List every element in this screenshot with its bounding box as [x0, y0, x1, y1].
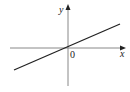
y-axis-label: y	[58, 4, 64, 15]
graph-diagram: y x 0	[0, 0, 130, 92]
x-axis-label: x	[119, 48, 125, 59]
origin-label: 0	[70, 49, 75, 60]
y-axis-arrow-icon	[66, 4, 71, 10]
plotted-line	[14, 24, 120, 70]
